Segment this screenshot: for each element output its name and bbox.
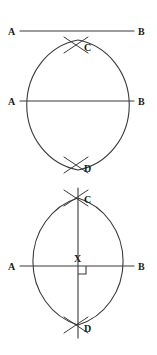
panel-3-label-x: X (74, 253, 82, 264)
panel-1-label-b: B (138, 26, 145, 37)
construction-diagram: A B A B C D (0, 0, 157, 355)
panel-2-label-d: D (84, 163, 91, 174)
panel-3-label-b: B (138, 261, 145, 272)
panel-3-label-c: C (84, 194, 91, 205)
panel-2-label-c: C (84, 42, 91, 53)
panel-3-label-d: D (84, 323, 91, 334)
panel-1-label-a: A (8, 26, 16, 37)
panel-3-label-a: A (8, 261, 16, 272)
panel-2-label-a: A (8, 96, 16, 107)
panel-2-label-b: B (138, 96, 145, 107)
geometry-figure: A B A B C D (0, 0, 157, 355)
